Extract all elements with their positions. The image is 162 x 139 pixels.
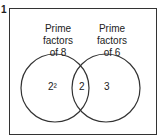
- right-only-value: 3: [104, 81, 110, 92]
- left-set-label: Prime factors of 8: [30, 23, 86, 59]
- left-only-value: 2²: [48, 81, 57, 92]
- right-label-line1: Prime factors: [84, 23, 140, 47]
- right-label-line2: of 6: [84, 47, 140, 59]
- venn-circles: [0, 0, 162, 139]
- left-label-line1: Prime factors: [30, 23, 86, 47]
- left-label-line2: of 8: [30, 47, 86, 59]
- right-set-label: Prime factors of 6: [84, 23, 140, 59]
- intersection-value: 2: [79, 81, 85, 92]
